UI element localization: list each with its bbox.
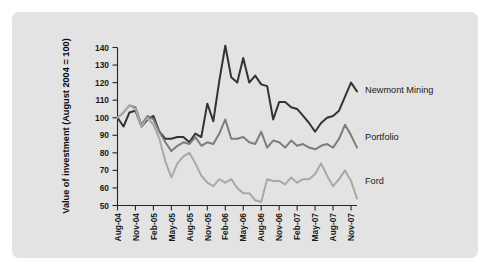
line-chart: Value of investment (August 2004 = 100) … bbox=[0, 0, 491, 272]
x-tick-label-12: Aug-07 bbox=[328, 213, 338, 242]
x-tick-label-11: May-07 bbox=[310, 213, 320, 242]
x-tick-label-4: Aug-05 bbox=[185, 213, 195, 242]
series-inline-legend: Newmont MiningPortfolioFord bbox=[365, 85, 433, 186]
x-tick-label-7: May-06 bbox=[238, 213, 248, 242]
y-axis-tick-labels: 5060708090100110120130140 bbox=[95, 43, 109, 211]
series-label-portfolio: Portfolio bbox=[365, 132, 399, 142]
series-line-newmont-mining bbox=[118, 46, 358, 143]
x-axis-tick-labels: Aug-04Nov-04Feb-05May-05Aug-05Nov-05Feb-… bbox=[113, 213, 357, 242]
y-tick-label-80: 80 bbox=[100, 148, 110, 158]
y-tick-label-90: 90 bbox=[100, 130, 110, 140]
y-tick-label-100: 100 bbox=[95, 113, 109, 123]
x-axis-ticks bbox=[118, 206, 352, 211]
y-tick-label-140: 140 bbox=[95, 43, 109, 53]
y-tick-label-110: 110 bbox=[95, 95, 109, 105]
x-tick-label-6: Feb-06 bbox=[220, 213, 230, 240]
x-tick-label-9: Nov-06 bbox=[274, 213, 284, 241]
y-tick-label-70: 70 bbox=[100, 165, 110, 175]
x-tick-label-3: May-05 bbox=[167, 213, 177, 242]
chart-figure: Value of investment (August 2004 = 100) … bbox=[0, 0, 491, 272]
x-tick-label-5: Nov-05 bbox=[203, 213, 213, 241]
series-label-newmont-mining: Newmont Mining bbox=[365, 85, 433, 95]
x-tick-label-8: Aug-06 bbox=[256, 213, 266, 242]
series-line-portfolio bbox=[118, 105, 358, 151]
x-tick-label-0: Aug-04 bbox=[113, 213, 123, 242]
y-tick-label-60: 60 bbox=[100, 183, 110, 193]
x-tick-label-2: Feb-05 bbox=[149, 213, 159, 240]
y-tick-label-50: 50 bbox=[100, 201, 110, 211]
y-axis-ticks bbox=[113, 48, 118, 206]
series-label-ford: Ford bbox=[365, 176, 384, 186]
series-lines bbox=[118, 46, 358, 202]
y-tick-label-120: 120 bbox=[95, 78, 109, 88]
y-tick-label-130: 130 bbox=[95, 60, 109, 70]
y-axis-title: Value of investment (August 2004 = 100) bbox=[61, 38, 71, 213]
y-axis-title-group: Value of investment (August 2004 = 100) bbox=[61, 38, 71, 213]
x-tick-label-13: Nov-07 bbox=[346, 213, 356, 241]
x-tick-label-10: Feb-07 bbox=[292, 213, 302, 240]
x-tick-label-1: Nov-04 bbox=[131, 213, 141, 241]
